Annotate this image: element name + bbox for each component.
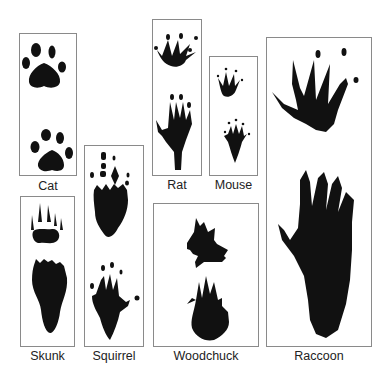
skunk-hind-track-icon [32, 259, 67, 333]
raccoon-front-track-icon [272, 48, 359, 132]
squirrel-hind-track-icon [90, 262, 140, 340]
raccoon-hind-track-icon [278, 170, 354, 338]
squirrel-front-track-icon [90, 152, 130, 237]
cat-label: Cat [19, 179, 77, 193]
skunk-front-track-icon [31, 203, 63, 243]
woodchuck-hind-track-icon [187, 276, 229, 341]
rat-label: Rat [152, 178, 202, 192]
rat-front-track-icon [154, 33, 198, 67]
squirrel-label: Squirrel [84, 349, 144, 363]
woodchuck-front-track-icon [187, 218, 228, 268]
cat-front-track-icon [22, 43, 66, 88]
raccoon-label: Raccoon [266, 349, 372, 363]
woodchuck-label: Woodchuck [153, 349, 259, 363]
mouse-label: Mouse [209, 178, 258, 192]
rat-hind-track-icon [156, 94, 192, 170]
mouse-hind-track-icon [224, 119, 250, 163]
skunk-label: Skunk [20, 349, 75, 363]
mouse-front-track-icon [217, 68, 243, 97]
cat-hind-track-icon [31, 129, 74, 171]
